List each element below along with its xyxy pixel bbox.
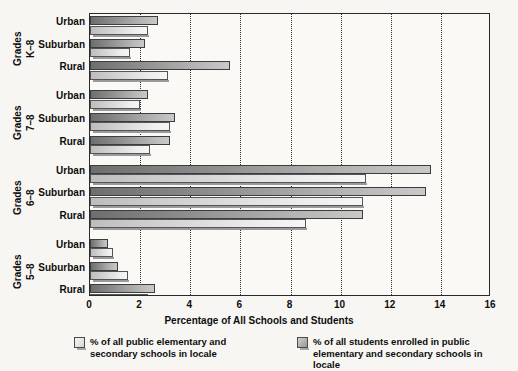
bar-schools-K-8-rural [90,71,168,80]
legend-item-schools: % of all public elementary and secondary… [74,336,279,371]
bar-students-6-8-rural [90,210,363,219]
bar-students-K-8-suburban [90,39,145,48]
bar-students-6-8-urban [90,165,431,174]
x-tick-label-6: 6 [227,299,251,310]
bar-students-K-8-urban [90,16,158,25]
legend-label-schools-line2: secondary schools in locale [90,348,217,359]
bar-students-5-8-suburban [90,262,118,271]
category-label-urban: Urban [56,16,85,27]
bar-students-6-8-suburban [90,187,426,196]
gridline-10 [341,14,342,295]
legend-label-students: % of all students enrolled in public ele… [313,336,502,371]
bar-schools-K-8-urban [90,26,148,35]
bar-students-7-8-urban [90,90,148,99]
category-label-rural: Rural [59,210,85,221]
group-sublabel-K-8: K–8 [25,35,36,63]
category-label-suburban: Suburban [38,39,85,50]
bar-schools-6-8-urban [90,174,366,183]
group-label-grades-5-8: Grades [12,251,23,293]
bar-schools-K-8-suburban [90,48,130,57]
gridline-6 [240,14,241,295]
bar-schools-6-8-rural [90,219,306,228]
x-axis-title: Percentage of All Schools and Students [0,315,518,326]
x-tick-label-12: 12 [378,299,402,310]
bar-students-5-8-rural [90,284,155,293]
legend-item-students: % of all students enrolled in public ele… [297,336,502,371]
bar-students-5-8-urban [90,239,108,248]
x-tick-label-4: 4 [177,299,201,310]
category-label-rural: Rural [59,136,85,147]
legend-label-students-line2: elementary and secondary schools in loca… [313,348,482,371]
legend-label-schools-line1: % of all public elementary and [90,336,226,347]
x-tick-label-10: 10 [328,299,352,310]
legend-label-students-line1: % of all students enrolled in public [313,336,470,347]
category-label-suburban: Suburban [38,187,85,198]
category-label-urban: Urban [56,90,85,101]
plot-area [89,13,490,296]
bar-students-K-8-rural [90,61,230,70]
x-tick-label-0: 0 [77,299,101,310]
group-sublabel-5-8: 5–8 [25,258,36,286]
gridline-14 [441,14,442,295]
group-label-grades-6-8: Grades [12,177,23,219]
group-sublabel-7-8: 7–8 [25,109,36,137]
x-tick-label-8: 8 [278,299,302,310]
bar-schools-6-8-suburban [90,197,363,206]
group-label-grades-K-8: Grades [12,28,23,70]
bar-schools-5-8-suburban [90,271,128,280]
category-label-rural: Rural [59,284,85,295]
gridline-8 [291,14,292,295]
bar-schools-5-8-rural [90,294,148,296]
gridline-4 [190,14,191,295]
bar-students-7-8-rural [90,136,170,145]
students-swatch-icon [297,337,308,348]
category-label-urban: Urban [56,165,85,176]
legend: % of all public elementary and secondary… [74,336,504,371]
x-tick-label-16: 16 [478,299,502,310]
category-label-rural: Rural [59,61,85,72]
gridline-12 [391,14,392,295]
schools-swatch-icon [74,337,85,348]
legend-label-schools: % of all public elementary and secondary… [90,336,226,359]
category-label-suburban: Suburban [38,113,85,124]
bar-schools-7-8-suburban [90,122,170,131]
category-label-suburban: Suburban [38,262,85,273]
group-label-grades-7-8: Grades [12,102,23,144]
category-label-urban: Urban [56,239,85,250]
bar-students-7-8-suburban [90,113,175,122]
group-sublabel-6-8: 6–8 [25,184,36,212]
bar-schools-5-8-urban [90,248,113,257]
x-tick-label-14: 14 [428,299,452,310]
x-tick-label-2: 2 [127,299,151,310]
bar-schools-7-8-rural [90,145,150,154]
bar-schools-7-8-urban [90,100,140,109]
